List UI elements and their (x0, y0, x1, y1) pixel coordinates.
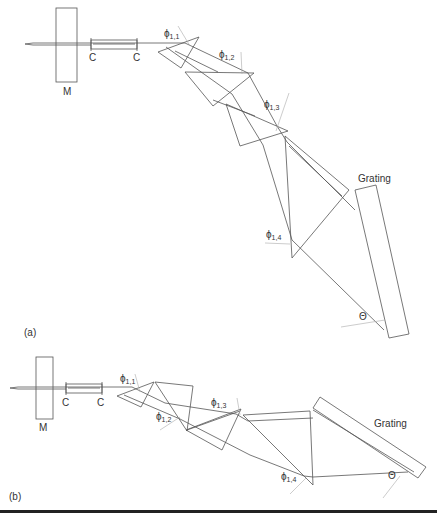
panel-label-b: (b) (9, 491, 21, 502)
angle-label-phi-1-4: ϕ1,4 (266, 229, 281, 241)
angle-label-phi-1-2: ϕ1,2 (156, 411, 171, 423)
angle-label-phi-1-4: ϕ1,4 (281, 471, 296, 483)
laser-prism-grating-diagram: M C C ϕ1,1 ϕ1,2 ϕ1,3 ϕ1,4 Grating Θ (a) (0, 0, 437, 513)
mirror-label: M (63, 86, 71, 97)
grating (313, 397, 426, 478)
beam-lower (166, 47, 384, 330)
panel-b: M C C ϕ1,1 ϕ1,2 ϕ1,3 ϕ1,4 Grating Θ (b) (9, 357, 426, 502)
collimator-label-2: C (97, 397, 104, 408)
collimator-tube (66, 384, 102, 393)
theta-label: Θ (359, 311, 367, 322)
beam-tip (10, 388, 18, 389)
collimator-tube (91, 40, 137, 49)
angle-label-phi-1-3: ϕ1,3 (211, 397, 226, 409)
angle-label-phi-1-1: ϕ1,1 (164, 28, 179, 40)
prism-2 (185, 72, 254, 106)
collimator-label-1: C (89, 52, 96, 63)
prism-4 (243, 411, 313, 485)
panel-a: M C C ϕ1,1 ϕ1,2 ϕ1,3 ϕ1,4 Grating Θ (a) (24, 8, 409, 338)
beam-tip (25, 44, 33, 45)
mirror-label: M (39, 422, 47, 433)
collimator-label-1: C (62, 397, 69, 408)
angle-label-phi-1-2: ϕ1,2 (219, 49, 234, 61)
theta-label: Θ (388, 470, 396, 481)
prism-1 (117, 382, 154, 407)
beam-lower (124, 395, 408, 477)
grating-label: Grating (358, 173, 391, 184)
mirror-m (36, 357, 53, 419)
grating-label: Grating (374, 418, 407, 429)
collimator-label-2: C (133, 52, 140, 63)
angle-label-phi-1-1: ϕ1,1 (120, 373, 135, 385)
angle-label-phi-1-3: ϕ1,3 (264, 99, 279, 111)
panel-label-a: (a) (24, 327, 36, 338)
prism-4 (285, 136, 349, 258)
prism-3 (186, 409, 241, 450)
